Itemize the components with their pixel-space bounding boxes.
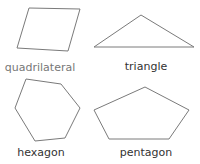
pentagon-label: pentagon <box>120 147 172 158</box>
quadrilateral-label: quadrilateral <box>5 62 75 73</box>
triangle-shape <box>94 15 194 47</box>
hexagon-label: hexagon <box>17 147 64 158</box>
pentagon-shape <box>94 87 189 139</box>
triangle-label: triangle <box>125 61 167 72</box>
shapes-diagram <box>0 0 200 164</box>
quadrilateral-shape <box>17 8 80 51</box>
hexagon-shape <box>15 79 80 141</box>
